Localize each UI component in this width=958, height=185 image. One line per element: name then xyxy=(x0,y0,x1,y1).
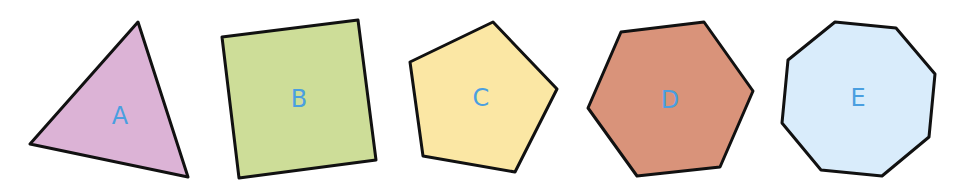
shapes-diagram: A B C D E xyxy=(0,0,958,185)
shape-triangle: A xyxy=(30,22,188,177)
triangle-label: A xyxy=(112,102,129,130)
shape-pentagon: C xyxy=(410,22,557,172)
pentagon-label: C xyxy=(473,84,490,112)
triangle-shape xyxy=(30,22,188,177)
shape-octagon: E xyxy=(782,22,935,176)
square-label: B xyxy=(291,85,307,113)
shape-hexagon: D xyxy=(588,22,753,176)
shape-square: B xyxy=(222,20,376,178)
hexagon-label: D xyxy=(661,86,679,114)
octagon-label: E xyxy=(850,84,865,112)
